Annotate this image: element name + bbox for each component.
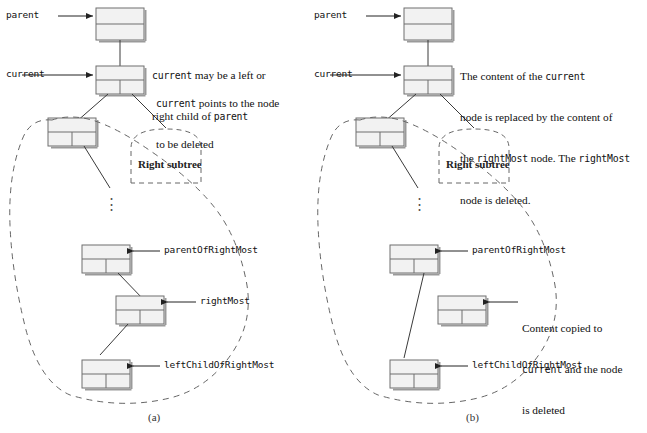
panel-caption-a: (a)	[148, 411, 160, 424]
current-label: current	[6, 68, 45, 79]
node-parentofrightmost	[82, 245, 132, 275]
node-rightmost-deleted	[438, 296, 488, 326]
current-label: current	[314, 68, 353, 79]
leftchildofrightmost-label: leftChildOfRightMost	[164, 359, 274, 370]
text-fragment: Content copied to	[522, 322, 602, 334]
leftchildofrightmost-label: leftChildOfRightMost	[472, 359, 582, 370]
parent-label: parent	[6, 9, 39, 20]
text-fragment: node is replaced by the content of	[460, 111, 612, 123]
node-parent	[96, 8, 146, 42]
bst-deletion-figure: parent current current may be a left or …	[0, 0, 647, 433]
annotation-content-replaced: The content of the current node is repla…	[460, 42, 630, 235]
text-fragment: The content of the	[460, 70, 545, 82]
right-subtree-label: Right subtree	[138, 158, 194, 171]
parentofrightmost-label: parentOfRightMost	[472, 244, 566, 255]
text-fragment: node. The	[528, 152, 579, 164]
edge-porm-lcorm-relinked	[404, 273, 424, 358]
text-fragment: is deleted	[522, 404, 565, 416]
node-parent	[404, 8, 454, 42]
node-left-child	[356, 118, 406, 148]
code-current: current	[545, 71, 585, 82]
code-current: current	[156, 98, 196, 109]
ellipsis-vertical: ⋮	[412, 196, 427, 214]
node-current	[96, 66, 146, 96]
edge-leftchild-descend	[392, 146, 418, 188]
node-current	[404, 66, 454, 96]
text-fragment: node is deleted.	[460, 194, 531, 206]
text-fragment: points to the node	[196, 97, 279, 109]
panel-caption-b: (b)	[466, 411, 479, 424]
text-fragment: to be deleted	[156, 138, 214, 150]
node-leftchildofrightmost	[82, 360, 132, 390]
edge-rightmost-lcorm	[100, 324, 128, 355]
node-leftchildofrightmost	[390, 360, 440, 390]
ellipsis-vertical: ⋮	[104, 196, 119, 214]
rightmost-label: rightMost	[200, 295, 250, 306]
edge-leftchild-descend	[84, 146, 110, 188]
code-rightmost: rightMost	[579, 153, 630, 164]
node-left-child	[48, 118, 98, 148]
node-parentofrightmost	[390, 245, 440, 275]
node-rightmost	[116, 296, 166, 326]
parent-label: parent	[314, 9, 347, 20]
right-subtree-label: Right subtree	[446, 158, 502, 171]
parentofrightmost-label: parentOfRightMost	[164, 244, 258, 255]
